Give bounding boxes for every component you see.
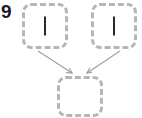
node-box-top-left[interactable] (22, 3, 68, 49)
edge-top-right-to-bottom (87, 51, 120, 73)
figure-canvas: 9 (0, 0, 142, 118)
vertical-bar-icon (44, 17, 46, 36)
vertical-bar-icon (113, 17, 115, 36)
edge-top-left-to-bottom (38, 51, 72, 73)
node-box-top-right[interactable] (91, 3, 137, 49)
node-box-bottom[interactable] (57, 76, 103, 117)
figure-number-label: 9 (1, 1, 11, 23)
